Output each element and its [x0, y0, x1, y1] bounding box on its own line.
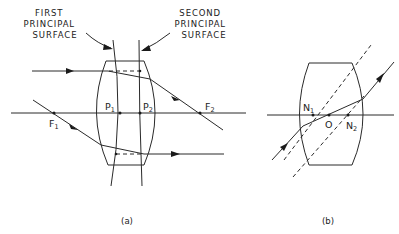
point-p2	[139, 112, 142, 115]
ray-upper-arrowhead-1-icon	[66, 68, 74, 74]
label-p2: P2	[143, 101, 153, 114]
second-surface-arrowhead-icon	[141, 45, 151, 51]
label-n1: N1	[303, 102, 314, 115]
label-p1: P1	[105, 101, 115, 114]
point-upper-hinge	[139, 70, 142, 73]
ray-lower	[33, 100, 224, 154]
point-n2	[347, 114, 350, 117]
first-principal-surface-label: FIRST PRINCIPAL SURFACE	[23, 8, 78, 40]
point-f2	[199, 112, 202, 115]
caption-b: (b)	[322, 216, 334, 226]
first-surface-arrowhead-icon	[103, 44, 113, 50]
lens-b	[300, 63, 364, 165]
label-n2: N2	[346, 120, 357, 133]
label-f2: F2	[205, 101, 215, 114]
ray-b	[272, 62, 394, 160]
thick-lens-principal-points-diagram: FIRST PRINCIPAL SURFACE SECOND PRINCIPAL…	[0, 0, 399, 234]
label-f1: F1	[49, 118, 59, 131]
point-lower-hinge	[115, 153, 118, 156]
label-o: O	[325, 119, 332, 130]
ray-upper	[32, 71, 223, 130]
panel-b: N1 O N2 (b)	[267, 45, 394, 226]
point-f1	[53, 112, 56, 115]
first-surface-leader	[86, 33, 111, 48]
caption-a: (a)	[121, 216, 133, 226]
ray-lower-arrowhead-1-icon	[69, 124, 78, 130]
ray-lower-arrowhead-2-icon	[171, 151, 180, 157]
panel-a: FIRST PRINCIPAL SURFACE SECOND PRINCIPAL…	[11, 8, 246, 226]
second-principal-surface-label: SECOND PRINCIPAL SURFACE	[174, 8, 229, 40]
point-o	[328, 114, 331, 117]
point-p1	[119, 112, 122, 115]
